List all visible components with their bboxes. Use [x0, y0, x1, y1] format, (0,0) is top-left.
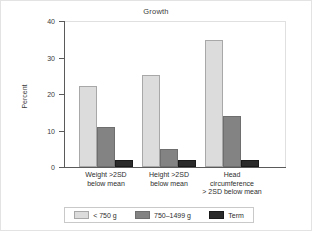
legend-swatch-icon-term: [209, 211, 224, 219]
legend-label-750-1499: 750–1499 g: [154, 212, 191, 219]
bar-head-lt750: [205, 40, 223, 167]
bar-weight-750-1499: [97, 127, 115, 167]
x-axis-line: [64, 167, 286, 168]
y-tick-0: [59, 167, 64, 168]
y-tick-10: [59, 131, 64, 132]
y-tick-20: [59, 94, 64, 95]
bar-weight-term: [115, 160, 133, 167]
legend-item-lt750: < 750 g: [74, 211, 117, 219]
y-tick-label-30: 30: [15, 55, 55, 62]
y-axis-title: Percent: [21, 67, 28, 127]
bar-height-750-1499: [160, 149, 178, 167]
y-tick-30: [59, 58, 64, 59]
x-category-head: Head circumference > 2SD below mean: [193, 171, 271, 197]
x-category-head-line-2: circumference: [193, 180, 271, 189]
bar-height-lt750: [142, 75, 160, 167]
bar-height-term: [178, 160, 196, 167]
chart-title: Growth: [1, 7, 311, 16]
y-tick-label-40: 40: [15, 18, 55, 25]
y-tick-label-10: 10: [15, 128, 55, 135]
legend-item-term: Term: [209, 211, 244, 219]
legend-label-lt750: < 750 g: [93, 212, 117, 219]
y-tick-label-0: 0: [15, 164, 55, 171]
y-axis-line: [64, 21, 65, 168]
legend-item-750-1499: 750–1499 g: [135, 211, 191, 219]
legend-swatch-icon-750-1499: [135, 211, 150, 219]
legend-label-term: Term: [228, 212, 244, 219]
bar-weight-lt750: [79, 86, 97, 167]
chart-legend: < 750 g 750–1499 g Term: [64, 207, 254, 223]
legend-swatch-icon-lt750: [74, 211, 89, 219]
x-category-head-line-3: > 2SD below mean: [193, 188, 271, 197]
y-tick-40: [59, 21, 64, 22]
chart-figure: Growth 40 30 20 10 0 Percent Weight >2SD…: [0, 0, 312, 231]
x-category-head-line-1: Head: [193, 171, 271, 180]
bar-head-term: [241, 160, 259, 167]
bar-head-750-1499: [223, 116, 241, 167]
